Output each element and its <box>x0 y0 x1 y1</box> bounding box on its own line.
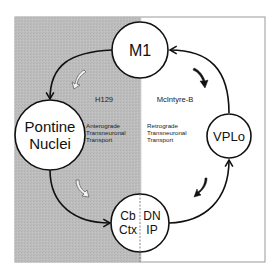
retrograde-line3: Transport <box>147 136 174 143</box>
pontine-label-line1: Pontine <box>25 118 76 135</box>
anterograde-line2: Transneuronal <box>86 129 126 136</box>
anterograde-line3: Transport <box>86 136 113 143</box>
ctx-label: Ctx <box>119 223 137 237</box>
node-m1: M1 <box>112 22 168 78</box>
dn-label: DN <box>143 209 160 223</box>
pontine-label-line2: Nuclei <box>29 135 71 152</box>
tracer-h129-label: H129 <box>95 95 113 104</box>
anterograde-line1: Anterograde <box>86 122 121 129</box>
m1-label: M1 <box>129 42 151 59</box>
retrograde-line1: Retrograde <box>147 122 179 129</box>
tracer-mcintyre-label: McIntyre-B <box>157 95 194 104</box>
cb-label: Cb <box>120 209 136 223</box>
node-vplo: VPLo <box>207 114 251 158</box>
ip-label: IP <box>146 223 157 237</box>
retrograde-line2: Transneuronal <box>147 129 187 136</box>
transneuronal-circuit-diagram: M1 Pontine Nuclei VPLo Cb Ctx DN IP H129… <box>0 0 279 269</box>
node-pontine-nuclei: Pontine Nuclei <box>15 100 85 170</box>
vplo-label: VPLo <box>213 129 245 144</box>
